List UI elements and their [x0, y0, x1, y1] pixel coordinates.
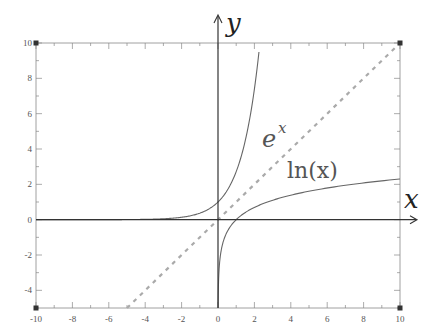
x-tick-label: 8: [361, 314, 366, 324]
exp-label-superscript: x: [278, 119, 287, 137]
exp-curve: [36, 52, 259, 220]
x-tick-label: 0: [216, 314, 221, 324]
function-plot: -10-8-6-4-20246810-4-20246810 x y exln(x…: [0, 0, 444, 336]
corner-marker: [398, 306, 403, 311]
x-tick-label: -4: [141, 314, 149, 324]
x-tick-label: -10: [30, 314, 42, 324]
y-axis-label: y: [225, 8, 241, 38]
x-axis-label: x: [404, 184, 419, 214]
ln-curve: [218, 179, 400, 308]
x-tick-label: 10: [396, 314, 406, 324]
x-tick-label: -8: [69, 314, 77, 324]
y-tick-label: -2: [25, 250, 33, 260]
identity-line: [127, 43, 400, 308]
y-tick-label: 4: [28, 144, 33, 154]
exp-label: e: [262, 125, 276, 153]
ln-label: ln(x): [287, 158, 338, 183]
x-tick-label: 6: [325, 314, 330, 324]
x-tick-label: 4: [289, 314, 294, 324]
corner-marker: [34, 306, 39, 311]
x-tick-label: 2: [252, 314, 257, 324]
y-tick-label: 6: [28, 109, 33, 119]
y-tick-label: 2: [28, 179, 33, 189]
y-tick-label: 0: [28, 215, 33, 225]
corner-marker: [398, 41, 403, 46]
x-tick-label: -6: [105, 314, 113, 324]
y-tick-label: 10: [23, 38, 33, 48]
y-tick-label: -4: [25, 285, 33, 295]
corner-marker: [34, 41, 39, 46]
curve-labels: exln(x): [262, 119, 338, 183]
main-axes: [36, 15, 417, 308]
y-tick-label: 8: [28, 73, 33, 83]
tick-labels: -10-8-6-4-20246810-4-20246810: [23, 38, 405, 324]
x-tick-label: -2: [178, 314, 186, 324]
